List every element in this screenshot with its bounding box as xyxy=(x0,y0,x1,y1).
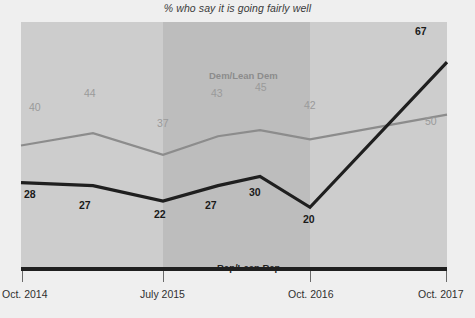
data-label-rep-1: 27 xyxy=(79,199,91,211)
data-label-rep-2: 22 xyxy=(154,208,166,220)
data-label-rep-5: 20 xyxy=(303,213,315,225)
data-label-dem-2: 37 xyxy=(157,117,169,129)
series-label-dem: Dem/Lean Dem xyxy=(209,70,278,81)
x-axis-line xyxy=(21,267,447,271)
x-axis-label-1: July 2015 xyxy=(140,288,185,300)
x-axis-tick-3 xyxy=(446,271,447,282)
x-axis-tick-1 xyxy=(163,271,164,282)
data-label-rep-0: 28 xyxy=(24,188,36,200)
data-label-dem-4: 45 xyxy=(255,81,267,93)
x-axis-label-0: Oct. 2014 xyxy=(2,288,48,300)
chart-container: % who say it is going fairly well Dem/Le… xyxy=(0,0,475,318)
x-axis-tick-2 xyxy=(310,271,311,282)
x-axis-label-2: Oct. 2016 xyxy=(288,288,334,300)
data-label-rep-3: 27 xyxy=(205,199,217,211)
chart-title: % who say it is going fairly well xyxy=(0,2,475,14)
plot-area: Dem/Lean Dem Rep/Lean Rep 40 44 37 43 45… xyxy=(21,22,447,269)
data-label-dem-6: 50 xyxy=(425,115,437,127)
data-label-dem-3: 43 xyxy=(211,87,223,99)
data-label-dem-0: 40 xyxy=(29,101,41,113)
x-axis-label-3: Oct. 2017 xyxy=(418,288,464,300)
data-label-dem-5: 42 xyxy=(304,99,316,111)
data-label-rep-4: 30 xyxy=(249,186,261,198)
series-lines xyxy=(21,22,447,269)
data-label-dem-1: 44 xyxy=(84,87,96,99)
data-label-rep-6: 67 xyxy=(415,25,427,37)
x-axis-tick-0 xyxy=(22,271,23,282)
dem-lean-dem-line xyxy=(21,115,447,155)
